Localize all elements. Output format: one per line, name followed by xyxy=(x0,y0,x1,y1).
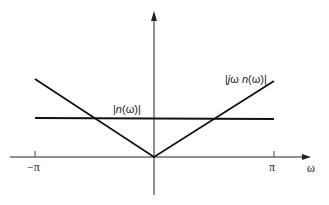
tick-label-pi: π xyxy=(269,160,275,175)
x-axis-label: ω xyxy=(307,161,315,176)
legend-jw-n-magnitude: |jω n(ω)| xyxy=(225,73,267,85)
tick-label-neg-pi: −π xyxy=(27,160,40,175)
x-axis-arrow-icon xyxy=(302,154,311,160)
legend-n-magnitude: |n(ω)| xyxy=(113,103,141,115)
series-n-magnitude xyxy=(35,118,274,119)
y-axis-arrow-icon xyxy=(151,11,157,21)
chart-plot xyxy=(0,0,329,205)
jw-label-post: (ω)| xyxy=(248,73,267,85)
n-label-post: (ω)| xyxy=(122,103,141,115)
jw-label-w: ω xyxy=(230,73,242,85)
